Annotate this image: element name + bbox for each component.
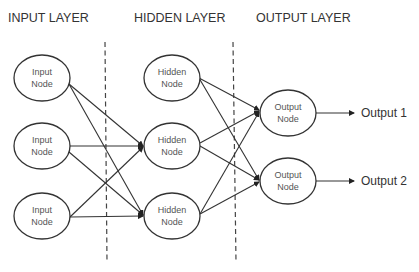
node-label-line1: Hidden [158, 135, 187, 145]
output-node-1: Output Node [260, 90, 316, 136]
node-label-line2: Node [161, 217, 183, 227]
node-label-line1: Output [274, 170, 302, 180]
hidden-node-3: Hidden Node [144, 193, 200, 239]
node-label-line1: Input [32, 67, 53, 77]
node-circle [260, 158, 316, 204]
node-label-line1: Input [32, 135, 53, 145]
node-label-line2: Node [31, 79, 53, 89]
output-2-label: Output 2 [361, 174, 407, 188]
input-node-2: Input Node [14, 123, 70, 169]
neural-network-diagram: INPUT LAYER HIDDEN LAYER OUTPUT LAYER In… [0, 0, 419, 272]
node-label-line2: Node [161, 79, 183, 89]
input-layer-title: INPUT LAYER [8, 11, 89, 25]
edge-i3-h3 [70, 216, 143, 217]
node-label-line1: Input [32, 205, 53, 215]
node-label-line1: Output [274, 102, 302, 112]
input-node-3: Input Node [14, 193, 70, 239]
node-label-line2: Node [31, 217, 53, 227]
node-circle [14, 123, 70, 169]
node-label-line2: Node [161, 147, 183, 157]
hidden-layer-title: HIDDEN LAYER [134, 11, 225, 25]
node-label-line2: Node [277, 182, 299, 192]
node-label-line1: Hidden [158, 205, 187, 215]
hidden-node-1: Hidden Node [144, 55, 200, 101]
output-node-2: Output Node [260, 158, 316, 204]
divider-input-hidden [105, 42, 107, 262]
node-label-line2: Node [31, 147, 53, 157]
node-circle [14, 55, 70, 101]
node-circle [260, 90, 316, 136]
output-layer-title: OUTPUT LAYER [256, 11, 351, 25]
node-label-line1: Hidden [158, 67, 187, 77]
node-circle [14, 193, 70, 239]
hidden-output-edges [199, 78, 259, 214]
node-circle [144, 193, 200, 239]
node-circle [144, 123, 200, 169]
input-node-1: Input Node [14, 55, 70, 101]
hidden-node-2: Hidden Node [144, 123, 200, 169]
output-1-label: Output 1 [361, 106, 407, 120]
node-label-line2: Node [277, 114, 299, 124]
node-circle [144, 55, 200, 101]
